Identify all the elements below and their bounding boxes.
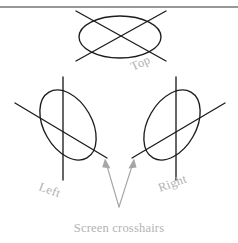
right-view-label: Right [156,172,189,195]
view-right: Right [132,77,225,195]
annotation-arrows [102,159,136,208]
screen-crosshairs-caption: Screen crosshairs [74,221,165,235]
arrow-to-right-crosshair-head [128,159,136,169]
right-view-diagonal-crosshair [132,103,225,158]
left-view-label: Left [37,180,63,201]
top-view-label: Top [128,53,152,74]
view-top: Top [76,11,166,74]
view-left: Left [15,77,108,200]
right-view-ellipse [132,80,212,170]
figure-root: Top Left Right Screen crosshairs [0,0,238,243]
left-view-ellipse [28,80,108,170]
left-view-diagonal-crosshair [15,103,107,158]
crosshair-alignment-diagram: Top Left Right Screen crosshairs [0,0,238,243]
arrow-to-right-crosshair [119,166,132,207]
arrow-to-left-crosshair-head [102,159,110,169]
arrow-to-left-crosshair [107,166,119,207]
